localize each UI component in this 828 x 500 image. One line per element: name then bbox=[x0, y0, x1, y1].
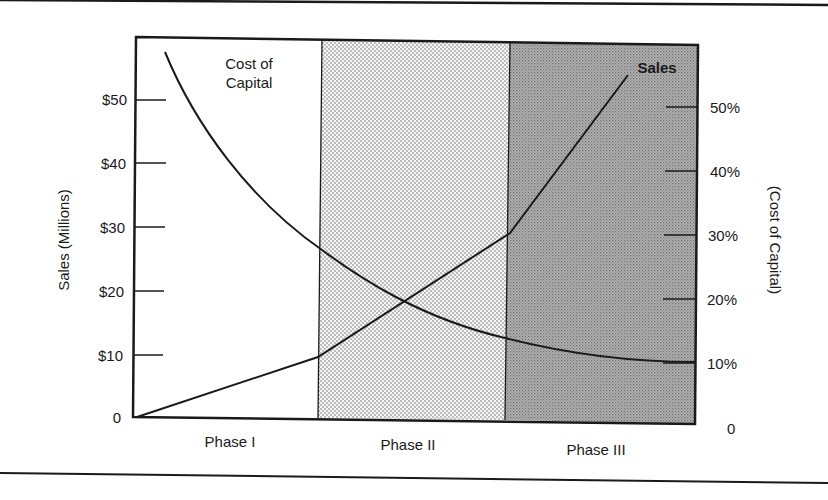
left-tick-20: $20 bbox=[99, 283, 124, 300]
right-tick-10: 10% bbox=[707, 355, 737, 372]
phase-2-region bbox=[318, 40, 510, 420]
cost-of-capital-label-line1: Cost of bbox=[225, 55, 273, 72]
right-tick-20: 20% bbox=[707, 291, 737, 308]
phase-3-region bbox=[505, 42, 698, 424]
left-tick-50: $50 bbox=[102, 91, 127, 108]
right-tick-0: 0 bbox=[727, 420, 735, 437]
bottom-rule bbox=[0, 473, 828, 483]
phase-1-label: Phase I bbox=[205, 433, 256, 450]
left-tick-10: $10 bbox=[98, 347, 123, 364]
cost-of-capital-label-line2: Capital bbox=[226, 74, 273, 91]
left-tick-0: 0 bbox=[113, 409, 121, 426]
right-axis-title: (Cost of Capital) bbox=[767, 186, 784, 294]
left-tick-40: $40 bbox=[101, 155, 126, 172]
top-rule bbox=[0, 0, 828, 5]
left-axis-ticks bbox=[134, 100, 166, 355]
left-tick-30: $30 bbox=[100, 219, 125, 236]
right-tick-40: 40% bbox=[710, 163, 740, 180]
right-tick-30: 30% bbox=[708, 227, 738, 244]
phase-3-label: Phase III bbox=[566, 441, 625, 458]
chart-canvas: $50 $40 $30 $20 $10 0 50% 40% 30% 20% 10… bbox=[0, 0, 828, 500]
left-axis-title: Sales (Millions) bbox=[55, 189, 72, 291]
right-tick-50: 50% bbox=[710, 99, 740, 116]
phase-2-label: Phase II bbox=[380, 436, 435, 453]
sales-label: Sales bbox=[637, 59, 676, 76]
